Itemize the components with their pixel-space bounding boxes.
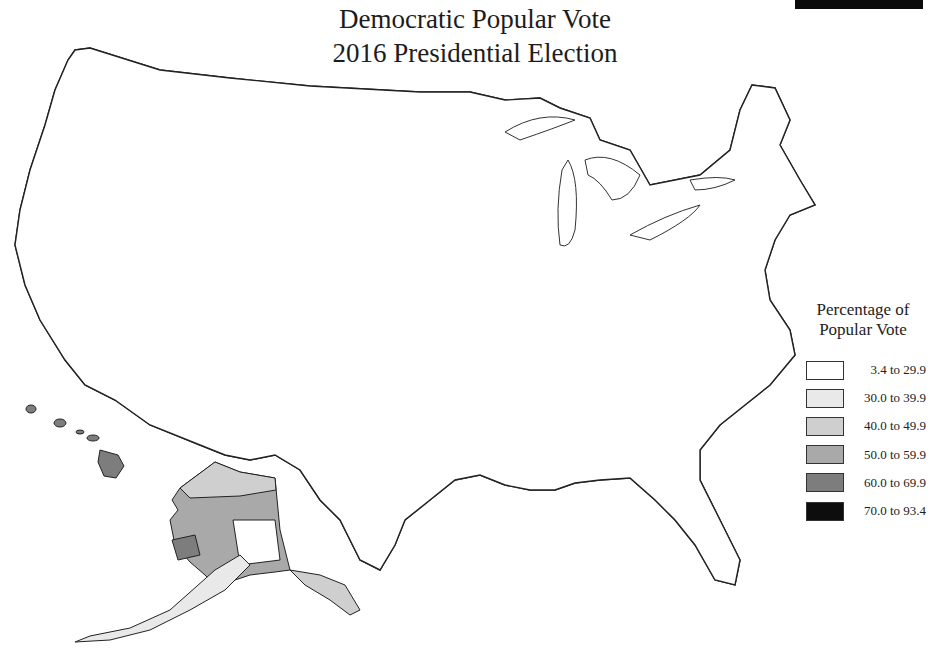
corner-black-bar xyxy=(795,0,923,9)
legend-title-line-2: Popular Vote xyxy=(790,320,936,340)
legend-item: 60.0 to 69.9 xyxy=(790,469,936,497)
legend-item: 50.0 to 59.9 xyxy=(790,441,936,469)
legend-label: 60.0 to 69.9 xyxy=(844,475,936,491)
legend-swatch xyxy=(806,502,844,521)
legend: Percentage of Popular Vote 3.4 to 29.9 3… xyxy=(790,300,936,525)
legend-label: 50.0 to 59.9 xyxy=(844,447,936,463)
legend-item: 30.0 to 39.9 xyxy=(790,384,936,412)
legend-title-line-1: Percentage of xyxy=(790,300,936,320)
legend-label: 3.4 to 29.9 xyxy=(844,362,936,378)
hawaii-inset xyxy=(26,405,124,478)
legend-label: 70.0 to 93.4 xyxy=(844,503,936,519)
legend-swatch xyxy=(806,389,844,408)
legend-swatch xyxy=(806,445,844,464)
legend-swatch xyxy=(806,473,844,492)
legend-item: 40.0 to 49.9 xyxy=(790,412,936,440)
legend-item: 70.0 to 93.4 xyxy=(790,497,936,525)
legend-label: 40.0 to 49.9 xyxy=(844,418,936,434)
title-line-1: Democratic Popular Vote xyxy=(250,2,700,36)
legend-title: Percentage of Popular Vote xyxy=(790,300,936,340)
legend-label: 30.0 to 39.9 xyxy=(844,390,936,406)
legend-swatch xyxy=(806,361,844,380)
legend-item: 3.4 to 29.9 xyxy=(790,356,936,384)
legend-swatch xyxy=(806,417,844,436)
